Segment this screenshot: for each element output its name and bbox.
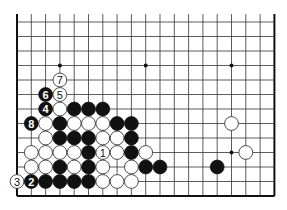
black-stone-disc <box>67 131 81 145</box>
white-stone: 7 <box>53 73 67 87</box>
white-stone <box>67 117 81 131</box>
black-stone: 6 <box>39 88 53 102</box>
white-stone-disc <box>225 117 239 131</box>
white-stone-disc <box>39 117 53 131</box>
black-stone <box>210 160 224 174</box>
black-stone <box>139 160 153 174</box>
white-stone-disc <box>53 102 67 116</box>
white-stone-disc <box>96 175 110 189</box>
white-stone <box>110 146 124 160</box>
black-stone <box>82 131 96 145</box>
black-stone-disc <box>67 175 81 189</box>
white-stone-disc <box>67 117 81 131</box>
white-stone <box>96 175 110 189</box>
black-stone: 2 <box>24 175 38 189</box>
black-stone-disc <box>82 146 96 160</box>
black-stone: 8 <box>24 117 38 131</box>
white-stone-disc <box>24 160 38 174</box>
black-stone <box>124 131 138 145</box>
black-stone <box>53 175 67 189</box>
white-stone-disc <box>239 146 253 160</box>
white-stone-disc <box>124 175 138 189</box>
white-stone <box>39 131 53 145</box>
move-number-label: 8 <box>28 118 34 130</box>
white-stone <box>225 117 239 131</box>
black-stone <box>96 102 110 116</box>
white-stone <box>110 175 124 189</box>
black-stone <box>124 146 138 160</box>
white-stone-disc <box>39 146 53 160</box>
white-stone-disc <box>96 131 110 145</box>
white-stone-disc <box>96 117 110 131</box>
move-number-label: 2 <box>28 176 34 188</box>
white-stone-disc <box>67 160 81 174</box>
black-stone-disc <box>53 160 67 174</box>
black-stone <box>39 175 53 189</box>
white-stone-disc <box>39 160 53 174</box>
move-number-label: 3 <box>14 176 20 188</box>
move-number-label: 7 <box>57 74 63 86</box>
black-stone-disc <box>53 131 67 145</box>
white-stone-disc <box>110 175 124 189</box>
black-stone-disc <box>82 175 96 189</box>
white-stone <box>24 146 38 160</box>
white-stone <box>82 117 96 131</box>
white-stone <box>39 146 53 160</box>
black-stone <box>53 160 67 174</box>
black-stone-disc <box>124 146 138 160</box>
black-stone <box>82 175 96 189</box>
white-stone <box>110 131 124 145</box>
white-stone <box>96 131 110 145</box>
black-stone-disc <box>96 102 110 116</box>
white-stone-disc <box>67 146 81 160</box>
white-stone <box>39 117 53 131</box>
white-stone <box>239 146 253 160</box>
white-stone-disc <box>124 160 138 174</box>
black-stone-disc <box>139 160 153 174</box>
black-stone <box>82 160 96 174</box>
black-stone <box>82 102 96 116</box>
black-stone-disc <box>110 117 124 131</box>
white-stone: 5 <box>53 88 67 102</box>
black-stone-disc <box>82 131 96 145</box>
white-stone-disc <box>39 131 53 145</box>
black-stone-disc <box>153 160 167 174</box>
white-stone-disc <box>53 146 67 160</box>
white-stone <box>53 146 67 160</box>
black-stone-disc <box>210 160 224 174</box>
black-stone-disc <box>39 175 53 189</box>
move-number-label: 4 <box>43 103 50 115</box>
move-number-label: 5 <box>57 89 63 101</box>
black-stone-disc <box>82 160 96 174</box>
black-stone <box>110 117 124 131</box>
white-stone-disc <box>82 117 96 131</box>
star-point <box>230 64 234 68</box>
white-stone-disc <box>139 146 153 160</box>
white-stone-disc <box>24 146 38 160</box>
black-stone-disc <box>53 175 67 189</box>
black-stone <box>53 131 67 145</box>
star-point <box>144 64 148 68</box>
white-stone: 1 <box>96 146 110 160</box>
black-stone <box>153 160 167 174</box>
white-stone-disc <box>110 131 124 145</box>
white-stone <box>124 160 138 174</box>
black-stone-disc <box>82 102 96 116</box>
black-stone <box>53 117 67 131</box>
white-stone <box>96 160 110 174</box>
white-stone <box>67 160 81 174</box>
black-stone <box>67 102 81 116</box>
white-stone-disc <box>96 160 110 174</box>
white-stone <box>24 160 38 174</box>
black-stone-disc <box>53 117 67 131</box>
black-stone <box>67 175 81 189</box>
black-stone-disc <box>124 117 138 131</box>
star-point <box>230 151 234 155</box>
star-point <box>58 64 62 68</box>
white-stone <box>67 146 81 160</box>
black-stone: 4 <box>39 102 53 116</box>
move-number-label: 1 <box>100 147 106 159</box>
white-stone <box>96 117 110 131</box>
black-stone <box>124 117 138 131</box>
go-board: 76548132 <box>0 0 287 210</box>
